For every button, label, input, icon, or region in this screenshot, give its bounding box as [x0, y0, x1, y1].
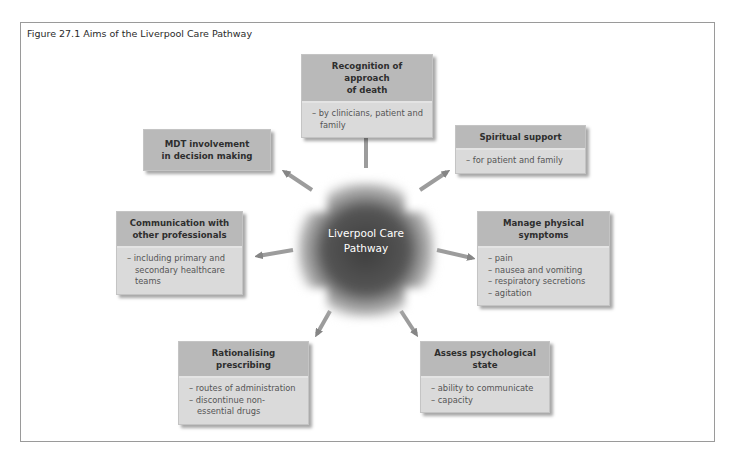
box-psychological-body: – ability to communicate – capacity — [421, 378, 549, 412]
box-physical: Manage physical symptoms – pain – nausea… — [477, 211, 610, 306]
box-recognition: Recognition of approach of death – by cl… — [301, 54, 433, 138]
list-item: – respiratory secretions — [488, 276, 601, 288]
box-prescribing-heading: Rationalising prescribing — [179, 342, 308, 378]
heading-line: symptoms — [484, 229, 603, 241]
box-recognition-body: – by clinicians, patient and family — [302, 103, 432, 137]
heading-line: Rationalising prescribing — [185, 347, 302, 371]
heading-line: state — [427, 359, 543, 371]
list-item: – for patient and family — [466, 155, 577, 167]
list-item: – agitation — [488, 288, 601, 300]
box-communication-heading: Communication with other professionals — [117, 212, 242, 248]
heading-line: Communication with — [123, 217, 236, 229]
box-communication: Communication with other professionals –… — [116, 211, 243, 295]
box-physical-body: – pain – nausea and vomiting – respirato… — [478, 248, 609, 305]
list-item: – routes of administration — [189, 383, 300, 395]
box-prescribing-body: – routes of administration – discontinue… — [179, 378, 308, 424]
heading-line: Assess psychological — [427, 347, 543, 359]
center-label: Liverpool Care Pathway — [298, 226, 434, 256]
heading-line: Manage physical — [484, 217, 603, 229]
arrow-up-right — [420, 172, 447, 190]
box-physical-heading: Manage physical symptoms — [478, 212, 609, 248]
box-psychological: Assess psychological state – ability to … — [420, 341, 550, 413]
heading-line: Spiritual support — [462, 131, 579, 143]
heading-line: other professionals — [123, 229, 236, 241]
list-item: – pain — [488, 253, 601, 265]
list-item: – by clinicians, patient and family — [312, 108, 424, 131]
list-item: – discontinue non-essential drugs — [189, 395, 300, 418]
box-communication-body: – including primary and secondary health… — [117, 248, 242, 294]
arrow-up-left — [285, 172, 312, 190]
heading-line: Recognition of approach — [308, 60, 426, 84]
box-psychological-heading: Assess psychological state — [421, 342, 549, 378]
heading-line: of death — [308, 84, 426, 96]
center-label-line2: Pathway — [298, 241, 434, 256]
center-label-line1: Liverpool Care — [298, 226, 434, 241]
arrow-right — [437, 250, 472, 258]
list-item: – nausea and vomiting — [488, 265, 601, 277]
list-item: – ability to communicate — [431, 383, 541, 395]
box-mdt-heading: MDT involvement in decision making — [144, 130, 270, 170]
heading-line: MDT involvement — [150, 138, 264, 150]
box-spiritual: Spiritual support – for patient and fami… — [455, 125, 586, 174]
box-mdt: MDT involvement in decision making — [143, 129, 271, 171]
list-item: – capacity — [431, 395, 541, 407]
box-spiritual-body: – for patient and family — [456, 150, 585, 173]
list-item: – including primary and secondary health… — [127, 253, 234, 288]
box-prescribing: Rationalising prescribing – routes of ad… — [178, 341, 309, 425]
heading-line: in decision making — [150, 150, 264, 162]
box-spiritual-heading: Spiritual support — [456, 126, 585, 150]
box-recognition-heading: Recognition of approach of death — [302, 55, 432, 103]
arrow-left — [258, 250, 293, 256]
